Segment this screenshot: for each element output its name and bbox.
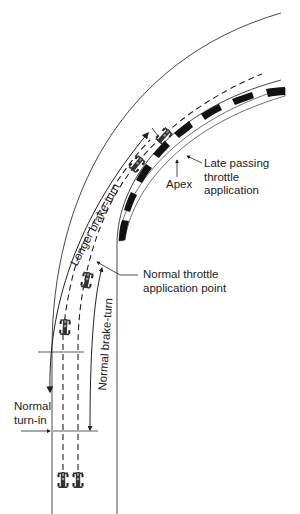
- label-normal-throttle: Normal throttle application point: [143, 268, 226, 295]
- late-throttle-tick: [152, 128, 158, 136]
- label-normal-turn-in: Normal turn-in: [14, 400, 51, 427]
- late-passing-line2: throttle: [204, 171, 269, 185]
- car-normal-exit: [80, 271, 94, 289]
- late-passing-line1: Late passing: [204, 157, 269, 171]
- normal-throttle-line2: application point: [143, 282, 226, 296]
- normal-turn-in-line2: turn-in: [14, 414, 51, 428]
- car-grid-left: [58, 472, 69, 488]
- normal-turn-in-line1: Normal: [14, 400, 51, 414]
- late-passing-line3: application: [204, 184, 269, 198]
- label-late-passing: Late passing throttle application: [204, 157, 269, 198]
- car-grid-right: [73, 472, 84, 488]
- label-apex: Apex: [166, 178, 192, 192]
- cornering-diagram: [0, 0, 300, 514]
- normal-throttle-line1: Normal throttle: [143, 268, 226, 282]
- car-normal-turnin: [59, 319, 71, 336]
- late-throttle-pointer: [187, 156, 202, 163]
- outer-track-edge: [52, 13, 281, 514]
- car-passing-top: [155, 126, 174, 145]
- normal-throttle-pointer: [97, 262, 138, 275]
- inner-track-edge: [117, 80, 281, 514]
